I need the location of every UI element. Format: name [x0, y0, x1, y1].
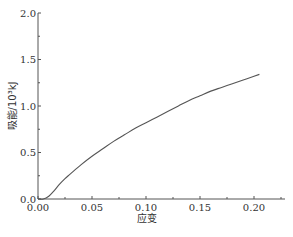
x-tick-label: 0.05: [81, 202, 103, 213]
y-axis-label: 吸能/10³kJ: [6, 82, 18, 131]
y-tick-label: 0.0: [20, 194, 36, 205]
chart: 0.000.050.100.150.200.00.51.01.52.0 应变 吸…: [0, 0, 293, 237]
x-tick-label: 0.20: [243, 202, 265, 213]
y-tick-label: 1.5: [20, 54, 36, 65]
y-tick-label: 0.5: [20, 147, 36, 158]
tick-labels: 0.000.050.100.150.200.00.51.01.52.0: [20, 8, 265, 214]
x-axis-label: 应变: [137, 212, 157, 224]
x-tick-label: 0.10: [135, 202, 157, 213]
y-tick-label: 1.0: [20, 101, 36, 112]
energy-absorption-curve: [38, 74, 259, 199]
y-tick-label: 2.0: [20, 8, 36, 19]
x-tick-label: 0.15: [189, 202, 211, 213]
ticks: [38, 13, 281, 199]
axes: [38, 13, 285, 199]
